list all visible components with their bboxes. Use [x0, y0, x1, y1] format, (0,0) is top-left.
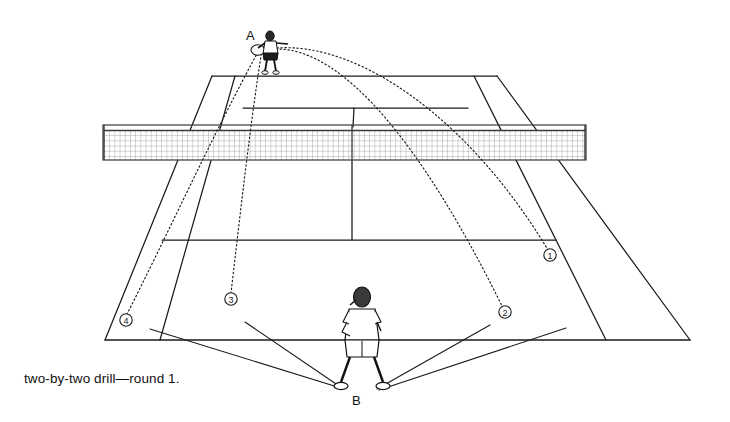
- run-path-to-2: [377, 325, 490, 389]
- run-path-to-1: [379, 328, 566, 390]
- tennis-net: [103, 125, 586, 160]
- court-diagram: 1 2 3 4: [0, 0, 730, 422]
- right-doubles-sideline: [497, 76, 690, 340]
- target-marker-4: 4: [120, 314, 132, 326]
- ball-trajectories: [127, 48, 548, 314]
- trajectory-to-2: [276, 49, 502, 306]
- far-center-service-line: [353, 108, 354, 127]
- torso-b: [345, 309, 379, 340]
- target-markers: 1 2 3 4: [120, 249, 556, 326]
- shorts-a: [263, 53, 278, 60]
- left-doubles-sideline: [105, 76, 212, 340]
- trajectory-to-3: [231, 50, 262, 293]
- player-a-figure: [251, 31, 288, 74]
- target-marker-2-number: 2: [502, 308, 507, 318]
- target-marker-1-number: 1: [547, 251, 552, 261]
- head-b: [354, 287, 371, 307]
- right-singles-sideline: [474, 76, 606, 340]
- target-marker-3: 3: [225, 293, 237, 305]
- tennis-drill-figure: 1 2 3 4 A B two-by-two drill—round 1.: [0, 0, 730, 422]
- court-lines: [105, 76, 690, 340]
- player-b-figure: [334, 287, 390, 390]
- trajectory-to-4: [127, 52, 258, 314]
- left-singles-sideline: [160, 76, 235, 340]
- player-b-label: B: [352, 393, 361, 408]
- figure-caption: two-by-two drill—round 1.: [24, 371, 180, 386]
- player-a-label: A: [246, 28, 255, 43]
- target-marker-2: 2: [499, 306, 511, 318]
- head-a: [266, 31, 274, 41]
- target-marker-4-number: 4: [123, 316, 128, 326]
- run-path-to-3: [245, 322, 342, 388]
- target-marker-3-number: 3: [228, 295, 233, 305]
- torso-a: [263, 41, 278, 54]
- target-marker-1: 1: [544, 249, 556, 261]
